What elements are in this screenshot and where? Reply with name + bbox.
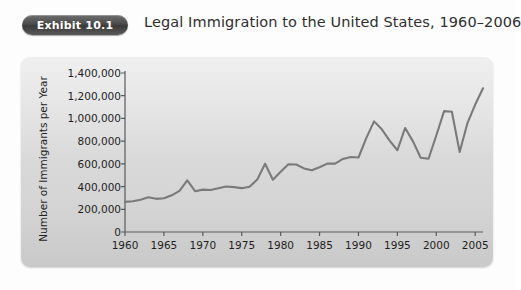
page-title: Legal Immigration to the United States, … (144, 14, 521, 30)
immigration-line-series (125, 88, 483, 202)
chart-panel: Number of Immigrants per Year 0200,00040… (21, 57, 493, 267)
x-axis-ticks (125, 232, 475, 236)
exhibit-header: Exhibit 10.1 Legal Immigration to the Un… (0, 0, 515, 50)
chart-plot-area (21, 57, 493, 267)
exhibit-badge-label: Exhibit 10.1 (37, 19, 113, 32)
axes-group (121, 71, 483, 236)
exhibit-badge: Exhibit 10.1 (22, 15, 128, 35)
